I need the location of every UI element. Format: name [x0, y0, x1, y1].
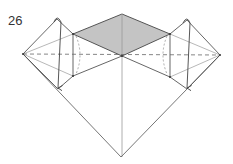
- left-fold-arrow-icon: [54, 18, 61, 88]
- origami-diagram: [0, 0, 233, 164]
- valley-fold-line: [23, 54, 220, 55]
- shaded-face: [73, 14, 170, 56]
- right-fold-arrow-icon: [183, 19, 190, 88]
- outer-bottom-edges: [23, 54, 220, 157]
